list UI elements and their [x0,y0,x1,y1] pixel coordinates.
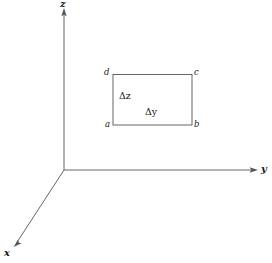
vertex-label-d: d [104,68,109,77]
vertex-label-a: a [105,120,110,129]
delta-z-label: Δz [119,91,131,101]
x-axis-arrowhead [14,239,22,247]
z-axis-label: z [60,0,66,9]
y-axis-label: y [261,164,267,174]
vertex-label-c: c [194,68,199,77]
axis-lines [17,12,255,243]
axis-arrowheads [14,8,259,247]
x-axis-line [17,170,65,243]
x-axis-label: x [4,248,10,258]
figure-vector-graphics [0,0,272,263]
delta-y-label: Δy [145,107,157,117]
physics-figure-3d-axes: z y x d c a b Δz Δy [0,0,272,263]
vertex-label-b: b [194,120,199,129]
